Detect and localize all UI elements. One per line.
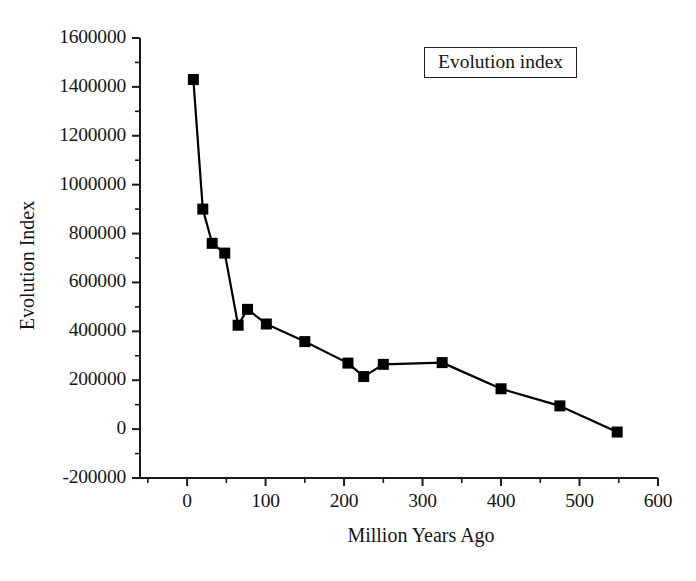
data-point-marker (342, 358, 353, 369)
data-point-marker (358, 371, 369, 382)
x-axis-ticks (148, 478, 658, 486)
legend-box: Evolution index (424, 47, 577, 78)
data-point-marker (197, 204, 208, 215)
y-tick-label: 200000 (0, 368, 126, 390)
data-point-marker (496, 383, 507, 394)
data-point-marker (378, 359, 389, 370)
data-point-marker (242, 304, 253, 315)
data-point-marker (554, 400, 565, 411)
y-tick-label: -200000 (0, 466, 126, 488)
data-point-marker (207, 238, 218, 249)
data-point-marker (261, 319, 272, 330)
y-tick-label: 0 (0, 417, 126, 439)
y-tick-label: 1400000 (0, 75, 126, 97)
data-point-marker (188, 74, 199, 85)
x-tick-label: 500 (540, 490, 620, 512)
y-tick-label: 1200000 (0, 124, 126, 146)
data-point-marker (437, 357, 448, 368)
y-tick-label: 1600000 (0, 26, 126, 48)
x-tick-label: 100 (226, 490, 306, 512)
data-point-marker (612, 427, 623, 438)
evolution-index-chart: -200000020000040000060000080000010000001… (0, 0, 696, 581)
x-tick-label: 600 (618, 490, 696, 512)
data-point-marker (219, 248, 230, 259)
x-tick-label: 300 (383, 490, 463, 512)
data-point-marker (299, 336, 310, 347)
legend-label: Evolution index (438, 51, 563, 72)
x-tick-label: 400 (461, 490, 541, 512)
y-axis-ticks (132, 38, 140, 478)
x-tick-label: 0 (147, 490, 227, 512)
data-point-marker (233, 320, 244, 331)
series-line-evolution-index (193, 80, 617, 432)
x-tick-label: 200 (304, 490, 384, 512)
series-markers-evolution-index (188, 74, 623, 437)
x-axis-title: Million Years Ago (186, 524, 656, 547)
y-axis-title: Evolution Index (16, 176, 39, 356)
